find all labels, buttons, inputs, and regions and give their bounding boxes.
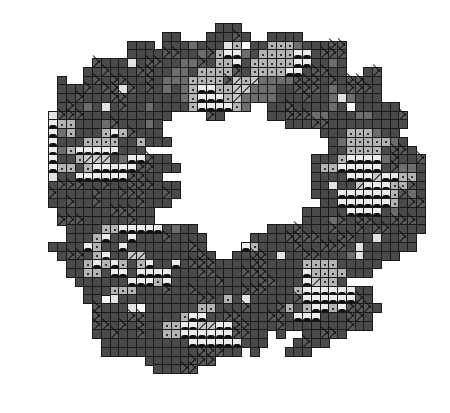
dark-gray-cell <box>337 329 347 339</box>
crossed-cell <box>188 364 198 374</box>
dark-gray-cell <box>250 347 260 357</box>
dark-gray-cell <box>232 347 242 357</box>
dark-gray-cell <box>363 321 373 331</box>
dark-gray-cell <box>372 303 382 313</box>
dark-gray-cell <box>407 242 417 252</box>
dark-gray-cell <box>416 224 426 234</box>
crossed-cell <box>206 356 216 366</box>
dark-gray-cell <box>398 119 408 129</box>
dark-gray-cell <box>390 251 400 261</box>
dark-gray-cell <box>171 163 181 173</box>
dark-gray-cell <box>363 268 373 278</box>
dark-gray-cell <box>302 347 312 357</box>
ring-grid-pattern <box>0 0 450 413</box>
dark-gray-cell <box>215 111 225 121</box>
dark-gray-cell <box>276 329 286 339</box>
dark-gray-cell <box>162 111 172 121</box>
dark-gray-cell <box>162 198 172 208</box>
mid-gray-cell <box>241 102 251 112</box>
dark-gray-cell <box>320 338 330 348</box>
dark-gray-cell <box>372 259 382 269</box>
dark-gray-cell <box>258 338 268 348</box>
dark-gray-cell <box>162 137 172 147</box>
dark-gray-cell <box>171 189 181 199</box>
